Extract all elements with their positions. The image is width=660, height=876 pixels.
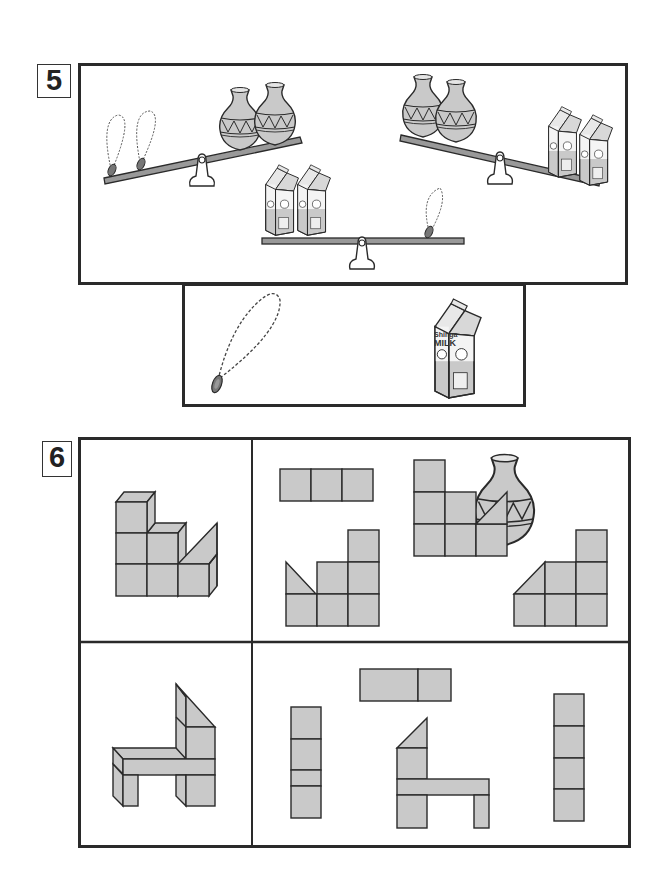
choice-necklace[interactable] bbox=[210, 294, 280, 394]
scale-cartons-vs-necklace bbox=[262, 165, 464, 269]
view-option-8[interactable] bbox=[554, 694, 584, 821]
model-chair-blocks bbox=[113, 684, 215, 806]
scale-vases-vs-cartons bbox=[400, 75, 613, 187]
model-stepped-blocks bbox=[116, 492, 217, 596]
choice-milk-carton[interactable]: Shinga MILK bbox=[434, 299, 481, 398]
view-option-4[interactable] bbox=[514, 530, 607, 626]
view-option-2[interactable] bbox=[286, 530, 379, 626]
view-option-6[interactable] bbox=[360, 669, 451, 701]
scale-necklaces-vs-vases bbox=[104, 83, 302, 187]
worksheet-illustrations: Shinga MILK bbox=[0, 0, 660, 876]
carton-label: MILK bbox=[434, 338, 456, 348]
view-option-7[interactable] bbox=[397, 718, 489, 828]
view-option-1[interactable] bbox=[280, 469, 373, 501]
view-option-5[interactable] bbox=[291, 707, 321, 818]
